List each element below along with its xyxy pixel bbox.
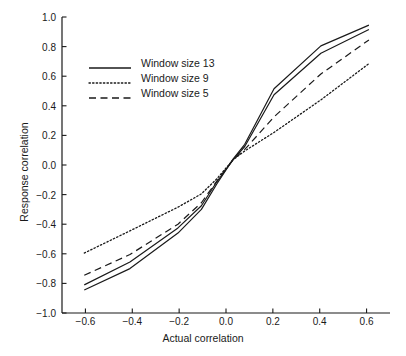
legend-line-sample — [88, 74, 132, 84]
x-tick-label: 0.0 — [219, 316, 233, 327]
y-tick-label: 0.2 — [16, 130, 56, 141]
x-tick-label: 0.4 — [313, 316, 327, 327]
x-tick-label: 0.6 — [360, 316, 374, 327]
legend-label: Window size 5 — [141, 86, 209, 101]
y-tick-label: −0.6 — [16, 248, 56, 259]
chart-legend: Window size 13Window size 9Window size 5 — [88, 56, 215, 101]
y-tick-label: −0.2 — [16, 189, 56, 200]
y-tick-label: 0.4 — [16, 100, 56, 111]
x-tick-label: 0.2 — [266, 316, 280, 327]
x-axis-label: Actual correlation — [0, 332, 406, 344]
x-tick-label: −0.4 — [122, 316, 142, 327]
legend-line-sample — [88, 89, 132, 99]
legend-item: Window size 5 — [88, 86, 215, 101]
y-tick-label: 0.0 — [16, 160, 56, 171]
y-tick-label: 1.0 — [16, 12, 56, 23]
legend-item: Window size 9 — [88, 71, 215, 86]
figure: Actual correlation Response correlation … — [0, 0, 406, 356]
legend-label: Window size 9 — [141, 71, 209, 86]
legend-label: Window size 13 — [141, 56, 215, 71]
y-tick-label: −0.8 — [16, 278, 56, 289]
y-tick-label: 0.6 — [16, 71, 56, 82]
y-tick-label: −0.4 — [16, 219, 56, 230]
y-tick-label: −1.0 — [16, 308, 56, 319]
legend-line-sample — [88, 59, 132, 69]
x-tick-label: −0.2 — [169, 316, 189, 327]
plot-area — [0, 0, 406, 356]
legend-item: Window size 13 — [88, 56, 215, 71]
y-tick-label: 0.8 — [16, 41, 56, 52]
y-axis-ticks — [62, 17, 67, 313]
x-tick-label: −0.6 — [76, 316, 96, 327]
x-axis-ticks — [85, 309, 366, 314]
